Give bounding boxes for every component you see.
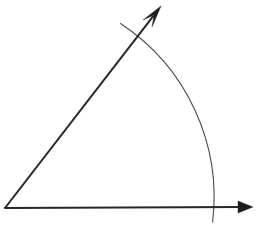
vertex-point xyxy=(4,207,6,209)
angle-diagram-canvas xyxy=(0,0,271,236)
diagram-background xyxy=(0,0,271,236)
horizontal-ray xyxy=(5,207,242,208)
